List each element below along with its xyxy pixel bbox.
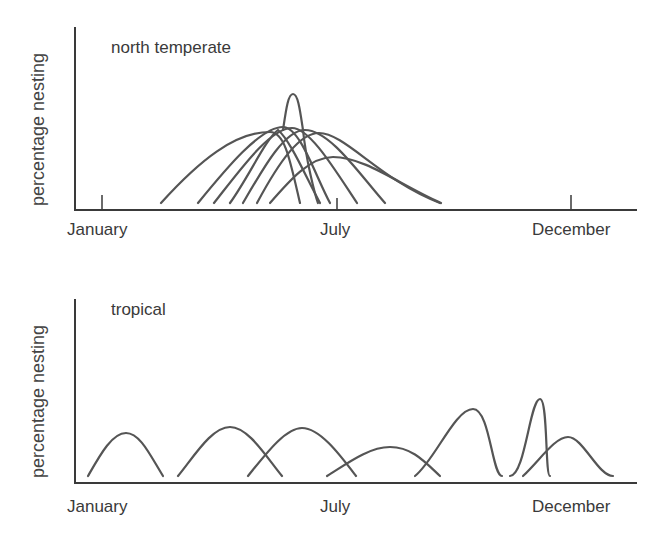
region-label: north temperate (111, 38, 231, 58)
x-label-july: July (320, 220, 350, 240)
nesting-curves (161, 94, 441, 203)
curve-2 (178, 427, 282, 476)
nesting-curves (88, 399, 613, 476)
x-label-december: December (532, 497, 610, 517)
y-axis-label: percentage nesting (28, 53, 49, 206)
x-label-january: January (67, 220, 127, 240)
x-label-july: July (320, 497, 350, 517)
x-label-december: December (532, 220, 610, 240)
y-axis-label: percentage nesting (28, 325, 49, 478)
region-label: tropical (111, 300, 166, 320)
curve-narrow (510, 399, 550, 476)
curve-7 (523, 437, 613, 476)
tropical-panel: percentage nesting tropical January July… (0, 280, 665, 540)
x-label-january: January (67, 497, 127, 517)
north-temperate-panel: percentage nesting north temperate Janua… (0, 0, 665, 260)
curve-narrow (283, 94, 318, 203)
curve-1 (88, 433, 163, 476)
